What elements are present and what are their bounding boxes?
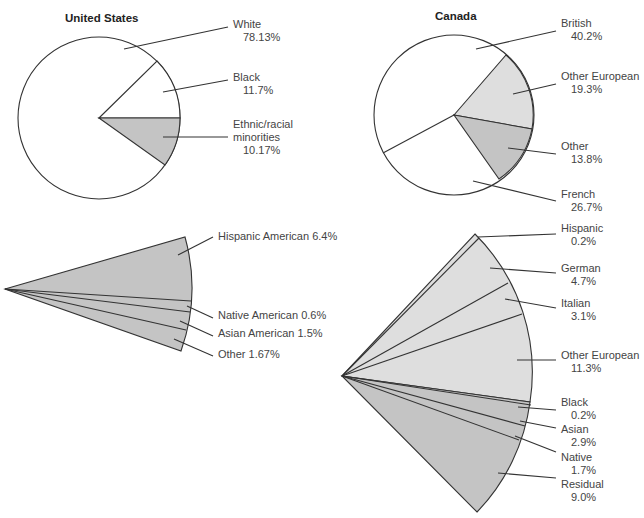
canada-label-british: British40.2% — [561, 17, 602, 43]
canada-chart-title: Canada — [435, 10, 477, 22]
us-label-native: Native American 0.6% — [218, 309, 326, 322]
canada-label-other: Other13.8% — [561, 140, 602, 166]
us-label-asian: Asian American 1.5% — [218, 327, 323, 340]
canada-pie — [374, 31, 556, 201]
canada-breakdown-german: German4.7% — [561, 262, 601, 288]
us-label-white: White78.13% — [233, 18, 280, 44]
canada-breakdown-hispanic: Hispanic0.2% — [561, 222, 603, 248]
canada-breakdown-residual: Residual9.0% — [561, 478, 604, 504]
canada-breakdown-native: Native1.7% — [561, 451, 596, 477]
us-label-minorities: Ethnic/racialminorities10.17% — [233, 118, 293, 157]
us-label-other: Other 1.67% — [218, 348, 280, 361]
us-pie — [18, 27, 228, 199]
us-chart-title: United States — [65, 12, 139, 24]
us-label-black: Black11.7% — [233, 71, 273, 97]
canada-breakdown-black: Black0.2% — [561, 396, 596, 422]
canada-breakdown-wedge — [342, 234, 556, 512]
chart-canvas — [0, 0, 644, 518]
canada-breakdown-italian: Italian3.1% — [561, 297, 596, 323]
us-breakdown-wedge — [5, 237, 213, 356]
canada-label-other-european: Other European19.3% — [561, 70, 639, 96]
canada-label-french: French26.7% — [561, 188, 602, 214]
canada-breakdown-asian: Asian2.9% — [561, 423, 596, 449]
us-label-hispanic: Hispanic American 6.4% — [218, 230, 337, 243]
canada-breakdown-other-european: Other European11.3% — [561, 349, 639, 375]
